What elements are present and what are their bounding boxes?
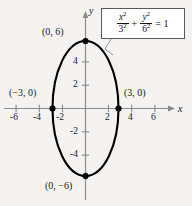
x-axis: [4, 106, 175, 112]
y-tick-label-neg4: -4: [70, 150, 78, 160]
x-denominator-exponent: 2: [123, 22, 126, 29]
point-label-top: (0, 6): [42, 27, 64, 37]
y-tick-label-4: 4: [73, 57, 78, 67]
point-label-right: (3, 0): [124, 88, 146, 98]
vertex-point-left: [49, 105, 55, 111]
ellipse-equation: x2 32 + y2 62 = 1: [117, 13, 170, 35]
plus-sign: +: [131, 18, 139, 29]
x-term-fraction: x2 32: [117, 13, 129, 35]
x-numerator-exponent: 2: [123, 9, 126, 16]
x-tick-label-4: 4: [128, 113, 133, 123]
vertex-point-top: [82, 38, 88, 44]
x-tick-label-neg6: -6: [10, 113, 18, 123]
point-label-left: (−3, 0): [9, 88, 36, 98]
y-term-denominator: 62: [140, 24, 152, 35]
y-term-fraction: y2 62: [140, 13, 152, 35]
x-axis-label: x: [178, 104, 182, 114]
x-tick-label-6: 6: [151, 113, 156, 123]
vertex-point-right: [115, 105, 121, 111]
x-tick-label-neg2: -2: [56, 113, 64, 123]
callout-leader-line: [105, 39, 113, 55]
y-numerator-exponent: 2: [147, 9, 150, 16]
x-tick-label-neg4: -4: [33, 113, 41, 123]
ellipse-figure: x y -6 -4 -2 2 4 6 4 2 -2 -4 (0, 6) (0, …: [0, 0, 192, 206]
equation-callout-box: x2 32 + y2 62 = 1: [101, 8, 185, 39]
y-axis-label: y: [89, 6, 93, 16]
y-denominator-exponent: 2: [147, 22, 150, 29]
vertex-point-bottom: [82, 173, 88, 179]
x-tick-label-2: 2: [105, 113, 110, 123]
equals-one: = 1: [154, 18, 169, 29]
y-tick-label-neg2: -2: [70, 127, 78, 137]
x-term-denominator: 32: [117, 24, 129, 35]
point-label-bottom: (0, −6): [45, 181, 72, 191]
y-tick-label-2: 2: [73, 80, 78, 90]
